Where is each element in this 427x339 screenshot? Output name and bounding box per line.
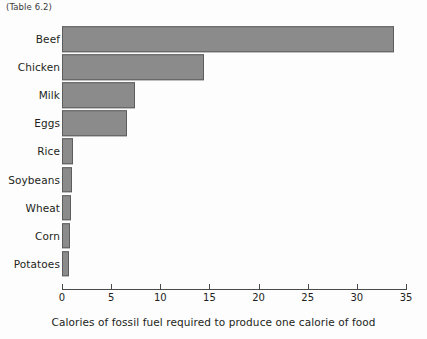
bar-eggs bbox=[62, 111, 127, 137]
x-axis-tick-label: 15 bbox=[203, 292, 216, 303]
x-axis-tick-label: 30 bbox=[350, 292, 363, 303]
x-axis-tick-label: 5 bbox=[108, 292, 114, 303]
x-axis-tick-label: 20 bbox=[252, 292, 265, 303]
x-axis-tick bbox=[160, 284, 161, 290]
bar-potatoes bbox=[62, 251, 69, 277]
bar-row: Soybeans bbox=[0, 166, 427, 194]
chart-page: (Table 6.2) BeefChickenMilkEggsRiceSoybe… bbox=[0, 0, 427, 339]
category-label-rice: Rice bbox=[37, 145, 60, 157]
bar-chicken bbox=[62, 54, 204, 80]
bar-row: Corn bbox=[0, 222, 427, 250]
bar-milk bbox=[62, 83, 135, 109]
bar-corn bbox=[62, 223, 70, 249]
x-axis-tick-label: 35 bbox=[400, 292, 413, 303]
bar-row: Milk bbox=[0, 81, 427, 109]
x-axis-tick-label: 0 bbox=[59, 292, 65, 303]
x-axis-tick bbox=[209, 284, 210, 290]
bar-soybeans bbox=[62, 167, 72, 193]
bar-row: Beef bbox=[0, 25, 427, 53]
bar-wheat bbox=[62, 195, 71, 221]
x-axis-tick bbox=[308, 284, 309, 290]
x-axis-line bbox=[62, 289, 406, 290]
bar-beef bbox=[62, 26, 394, 52]
bar-row: Eggs bbox=[0, 109, 427, 137]
x-axis-title: Calories of fossil fuel required to prod… bbox=[0, 316, 427, 328]
x-axis-tick bbox=[357, 284, 358, 290]
category-label-potatoes: Potatoes bbox=[14, 258, 60, 270]
bar-row: Potatoes bbox=[0, 250, 427, 278]
bar-rice bbox=[62, 139, 73, 165]
category-label-milk: Milk bbox=[39, 89, 60, 101]
x-axis-tick-label: 10 bbox=[154, 292, 167, 303]
x-axis-tick bbox=[62, 284, 63, 290]
x-axis-tick bbox=[111, 284, 112, 290]
bar-row: Wheat bbox=[0, 194, 427, 222]
category-label-beef: Beef bbox=[36, 33, 60, 45]
category-label-eggs: Eggs bbox=[34, 117, 60, 129]
category-label-wheat: Wheat bbox=[25, 202, 60, 214]
bar-row: Rice bbox=[0, 137, 427, 165]
x-axis-tick bbox=[406, 284, 407, 290]
category-label-corn: Corn bbox=[35, 230, 60, 242]
category-label-soybeans: Soybeans bbox=[8, 174, 60, 186]
x-axis-tick bbox=[259, 284, 260, 290]
x-axis-tick-label: 25 bbox=[301, 292, 314, 303]
bar-row: Chicken bbox=[0, 53, 427, 81]
category-label-chicken: Chicken bbox=[18, 61, 60, 73]
